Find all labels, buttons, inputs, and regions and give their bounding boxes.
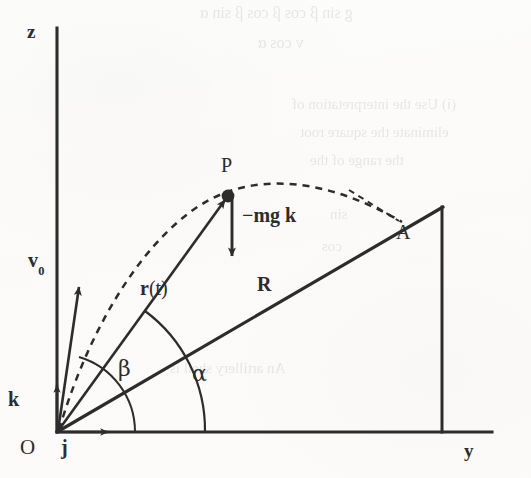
initial-velocity-vector bbox=[58, 287, 79, 431]
position-vector-label: r(t) bbox=[140, 278, 168, 298]
z-axis-label: z bbox=[27, 22, 35, 41]
point-p-marker bbox=[222, 190, 235, 203]
angle-alpha-label: α bbox=[192, 363, 207, 385]
gravity-force-label: −mg k bbox=[242, 205, 296, 225]
position-vector-rt bbox=[58, 200, 225, 431]
angle-beta-label: β bbox=[118, 358, 131, 380]
incline-line bbox=[57, 207, 443, 432]
initial-velocity-subscript: 0 bbox=[38, 264, 44, 278]
j-unit-vector-label: j bbox=[61, 437, 68, 457]
range-label: R bbox=[257, 274, 271, 294]
y-axis-label: y bbox=[464, 441, 474, 460]
point-p-label: P bbox=[221, 155, 232, 175]
diagram-canvas bbox=[0, 0, 531, 478]
position-vector-symbol: r bbox=[140, 277, 149, 299]
incline-group bbox=[57, 207, 443, 432]
parabolic-trajectory bbox=[59, 184, 402, 430]
position-vector-argument: (t) bbox=[149, 277, 168, 299]
point-a-label: A bbox=[396, 222, 410, 242]
initial-velocity-label: v0 bbox=[28, 250, 44, 274]
initial-velocity-symbol: v bbox=[28, 249, 38, 271]
k-unit-vector-label: k bbox=[8, 389, 19, 409]
origin-label: O bbox=[20, 437, 35, 458]
projectile-incline-figure: g sin β cos β cos β sin αv cos α(i) Use … bbox=[0, 0, 531, 478]
